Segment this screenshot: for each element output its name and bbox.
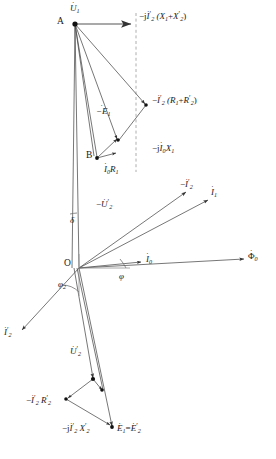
label-leakage-reactance-drop: −j˙I′2 (X1+X′2) bbox=[139, 12, 186, 22]
label-stator-current: ˙I1 bbox=[211, 188, 217, 198]
dot-accent-u2p-neg: ˙ bbox=[103, 198, 106, 207]
line-o-to-flux bbox=[79, 259, 244, 268]
label-neg-rotor-current: −˙I′2 bbox=[180, 180, 193, 190]
dot-b bbox=[95, 156, 99, 160]
line-o-to-x2pvertex bbox=[77, 268, 103, 390]
dot-e1tip bbox=[110, 425, 114, 429]
dot-accent-i0-r1: ˙ bbox=[104, 162, 107, 171]
angle-label-phi2: φ2 bbox=[58, 280, 66, 290]
dot-accent-u2p: ˙ bbox=[72, 345, 75, 354]
dot-accent-i2p-r: ˙ bbox=[157, 94, 160, 103]
dot-accent-e2p: ˙ bbox=[132, 422, 135, 431]
line-rdropvertex-to-x1vertex bbox=[119, 105, 146, 140]
line-u2ptip-to-r2pvertex bbox=[68, 379, 93, 398]
dot-accent-flux: ˙ bbox=[250, 249, 253, 258]
dot-u2ptip bbox=[91, 377, 95, 381]
dot-x1vertex bbox=[116, 138, 120, 142]
angle-label-phi: φ bbox=[119, 272, 124, 281]
label-supply-voltage: ˙U1 bbox=[70, 4, 80, 14]
dot-accent-i2p-r2p: ˙ bbox=[31, 394, 34, 403]
angle-label-delta: δ bbox=[70, 216, 74, 225]
line-a-to-left-branch bbox=[72, 24, 75, 268]
label-rotor-resistance-drop: −˙I′2 R′2 bbox=[26, 396, 51, 406]
line-o-to-i2p bbox=[22, 268, 79, 330]
line-o-to-i1 bbox=[79, 200, 208, 268]
point-label-a: A bbox=[57, 17, 64, 27]
line-a-to-e1tip bbox=[75, 24, 94, 156]
dot-accent-i2p-top: ˙ bbox=[147, 10, 150, 19]
dot-accent-u1: ˙ bbox=[72, 1, 75, 10]
label-magnetizing-current: ˙I0 bbox=[146, 255, 152, 265]
line-a-to-rdrop bbox=[75, 24, 145, 104]
dot-accent-i2p-bl: ˙ bbox=[4, 326, 7, 335]
dot-accent-i2p-neg: ˙ bbox=[185, 178, 188, 187]
line-r2pvertex-to-e1tip bbox=[66, 399, 110, 425]
label-resistance-drop: −˙I′2 (R1+R′2) bbox=[152, 96, 197, 106]
label-stator-resistance-drop: ˙I0R1 bbox=[104, 165, 119, 175]
dot-rdrop bbox=[144, 103, 148, 107]
phasor-lines bbox=[22, 24, 244, 426]
label-emf-equality: ˙E1=˙E′2 bbox=[117, 424, 141, 434]
dot-accent-i0: ˙ bbox=[146, 252, 149, 261]
label-neg-emf: ˙−E1 bbox=[96, 107, 111, 117]
label-stator-reactance-drop: −j˙I0X1 bbox=[152, 144, 174, 154]
line-a-to-b bbox=[75, 24, 97, 157]
arc-angle-delta bbox=[70, 213, 77, 214]
dot-accent-i0-x1: ˙ bbox=[160, 141, 163, 150]
dot-a bbox=[72, 21, 77, 26]
label-rotor-reactance-drop: −j˙I′2 X′2 bbox=[62, 424, 90, 434]
dot-accent-i1: ˙ bbox=[211, 185, 214, 194]
phasor-diagram-canvas bbox=[0, 0, 276, 459]
phasor-diagram-figure: ˙U1 A −j˙I′2 (X1+X′2) −˙I′2 (R1+R′2) ˙−E… bbox=[0, 0, 276, 459]
label-main-flux: ˙Φ0 bbox=[248, 252, 258, 262]
dot-accent-i2p-x2p: ˙ bbox=[70, 422, 73, 431]
vertex-dots bbox=[64, 21, 148, 429]
label-rotor-voltage: ˙U′2 bbox=[70, 347, 81, 357]
dot-r2pvertex bbox=[64, 397, 68, 401]
label-neg-rotor-voltage: −˙U′2 bbox=[96, 200, 112, 210]
dot-accent-e1: ˙ bbox=[118, 422, 121, 431]
line-o-to-e1tip bbox=[79, 268, 112, 426]
dot-x2pvertex bbox=[100, 388, 104, 392]
label-rotor-current: ˙I′2 bbox=[4, 328, 12, 338]
line-a-to-o bbox=[75, 24, 79, 268]
point-label-b: B bbox=[86, 151, 92, 161]
point-label-o: O bbox=[64, 259, 71, 269]
dot-accent-e1-neg: ˙ bbox=[100, 104, 103, 113]
line-a-to-x1vertex bbox=[75, 24, 117, 139]
